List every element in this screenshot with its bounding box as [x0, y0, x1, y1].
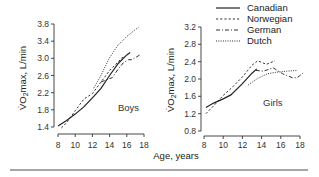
girls-y-axis-title: V̇O2max, L/min [165, 48, 177, 112]
boys-y-tick-label: 1.4 [37, 122, 49, 132]
legend-label: Dutch [247, 35, 272, 46]
legend-label: Canadian [247, 2, 288, 13]
girls-x-tick-label: 14 [257, 140, 267, 150]
boys-x-tick-label: 14 [105, 140, 115, 150]
girls-series-german [256, 68, 304, 78]
girls-series-dutch [248, 70, 297, 85]
boys-series-canadian [58, 52, 130, 126]
legend: Canadian Norwegian German Dutch [216, 2, 292, 46]
girls-y-tick-label: 2.0 [184, 74, 196, 84]
boys-series-german [101, 55, 140, 82]
legend-item-dutch: Dutch [216, 35, 272, 46]
girls-y-tick-labels: 3.2 2.8 2.4 2.0 1.6 1.2 0.8 [184, 22, 196, 136]
boys-y-tick-label: 2.6 [37, 71, 49, 81]
girls-panel-label: Girls [263, 97, 283, 108]
girls-y-tick-label: 1.6 [184, 91, 196, 101]
boys-x-tick-label: 10 [70, 140, 80, 150]
girls-y-tick-label: 0.8 [184, 126, 196, 136]
boys-panel: 3.8 3.4 3.0 2.6 2.2 1.8 1.4 V̇O2max, L/m… [17, 19, 149, 150]
girls-series-canadian [206, 69, 257, 108]
boys-x-tick-label: 8 [56, 140, 61, 150]
boys-y-axis-title: V̇O2max, L/min [17, 46, 29, 110]
legend-label: German [247, 24, 281, 35]
girls-x-tick-label: 16 [276, 140, 286, 150]
boys-y-tick-labels: 3.8 3.4 3.0 2.6 2.2 1.8 1.4 [37, 19, 49, 132]
boys-x-tick-label: 12 [88, 140, 98, 150]
boys-x-tick-labels: 8 10 12 14 16 18 [56, 140, 149, 150]
boys-y-tick-label: 2.2 [37, 88, 49, 98]
girls-x-tick-label: 8 [202, 140, 207, 150]
boys-panel-label: Boys [118, 102, 139, 113]
boys-x-tick-label: 16 [122, 140, 132, 150]
girls-y-tick-label: 1.2 [184, 109, 196, 119]
girls-y-tick-label: 3.2 [184, 22, 196, 32]
legend-item-german: German [216, 24, 281, 35]
girls-x-tick-labels: 8 10 12 14 16 18 [202, 140, 305, 150]
boys-x-tick-label: 18 [139, 140, 149, 150]
girls-x-tick-label: 12 [238, 140, 248, 150]
figure: 3.8 3.4 3.0 2.6 2.2 1.8 1.4 V̇O2max, L/m… [0, 0, 319, 177]
boys-y-tick-label: 3.8 [37, 19, 49, 29]
legend-item-canadian: Canadian [216, 2, 288, 13]
boys-y-tick-label: 3.4 [37, 36, 49, 46]
girls-x-tick-label: 18 [295, 140, 305, 150]
girls-x-tick-label: 10 [218, 140, 228, 150]
boys-y-tick-label: 3.0 [37, 53, 49, 63]
boys-series-dutch [94, 27, 139, 88]
boys-y-tick-label: 1.8 [37, 105, 49, 115]
x-axis-title: Age, years [153, 150, 199, 161]
legend-item-norwegian: Norwegian [216, 13, 292, 24]
girls-y-tick-label: 2.8 [184, 39, 196, 49]
legend-label: Norwegian [247, 13, 292, 24]
girls-y-tick-label: 2.4 [184, 57, 196, 67]
